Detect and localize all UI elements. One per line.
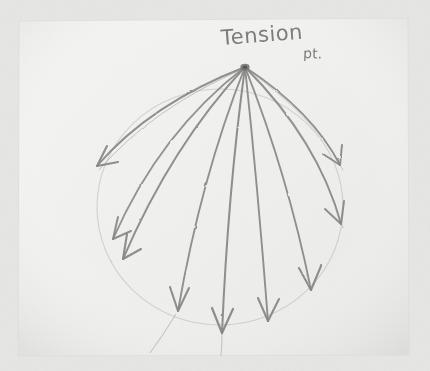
tension-point — [240, 64, 249, 70]
sketch-paper-sheet — [18, 18, 409, 356]
sketch-canvas — [0, 0, 430, 371]
sketch-photograph: Tension pt. — [0, 0, 430, 371]
